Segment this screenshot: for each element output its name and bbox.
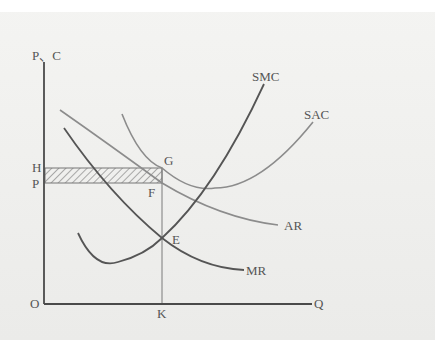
p-price-label: P — [32, 177, 39, 190]
sac-label: SAC — [304, 108, 329, 121]
point-e-label: E — [172, 233, 180, 246]
point-k-label: K — [157, 307, 166, 320]
point-g-label: G — [164, 154, 173, 167]
point-f-label: F — [148, 186, 155, 199]
x-axis-label: Q — [314, 297, 323, 310]
cost-revenue-diagram — [0, 0, 435, 340]
h-price-label: H — [32, 161, 41, 174]
smc-label: SMC — [252, 70, 279, 83]
diagram-canvas: P、C Q O H P G F E K SMC SAC AR MR — [0, 0, 435, 340]
origin-label: O — [30, 297, 39, 310]
ar-label: AR — [284, 219, 302, 232]
y-axis-label: P、C — [32, 49, 61, 62]
mr-label: MR — [246, 264, 266, 277]
